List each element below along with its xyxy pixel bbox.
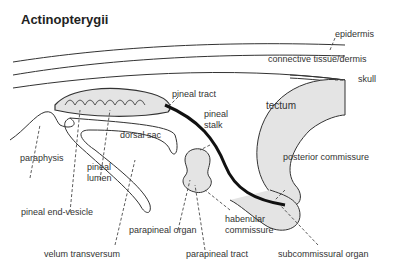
label-pineal-tract: pineal tract [172,89,216,100]
label-paraphysis: paraphysis [20,153,64,164]
label-parapineal-organ: parapineal organ [129,225,197,236]
label-tectum: tectum [266,100,296,111]
label-posterior-commissure: posterior commissure [283,152,369,163]
label-pineal-stalk-2: stalk [204,120,223,131]
label-pineal-lumen-2: lumen [87,173,112,184]
label-pineal-end-vesicle: pineal end-vesicle [21,207,93,218]
label-habenular-1: habenular [225,214,265,225]
label-pineal-stalk-1: pineal [204,109,228,120]
label-habenular-2: commissure [225,225,274,236]
label-dorsal-sac: dorsal sac [120,130,161,141]
label-connective-tissue: connective tissue/dermis [268,54,367,65]
skin-layers [13,44,345,88]
label-pineal-lumen-1: pineal [87,162,111,173]
label-velum-transversum: velum transversum [44,249,120,260]
label-parapineal-tract: parapineal tract [186,249,248,260]
label-subcommissural-organ: subcommissural organ [278,249,369,260]
label-epidermis: epidermis [335,29,374,40]
tectum-shape [257,79,345,205]
pineal-complex-diagram [0,0,394,275]
label-skull: skull [358,74,376,85]
